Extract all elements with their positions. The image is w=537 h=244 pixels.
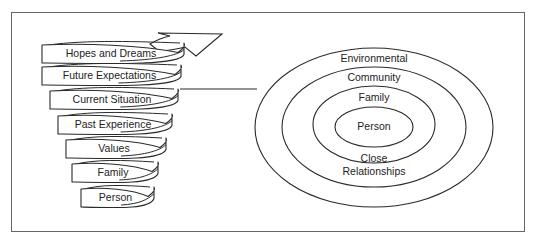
- spiral-ribbon: Future Expectations: [42, 63, 182, 85]
- ring-label-environmental: Environmental: [340, 52, 407, 64]
- spiral-label: Current Situation: [73, 93, 152, 105]
- ring-label-community: Community: [347, 71, 401, 83]
- ring-labels: Environmental Community Family Person Cl…: [340, 52, 407, 177]
- spiral-label: Person: [99, 191, 132, 203]
- spiral-label: Family: [98, 166, 130, 178]
- spiral-ribbon: Current Situation: [50, 87, 179, 109]
- ring-label-close: Close: [361, 152, 388, 164]
- diagram-svg: PersonFamilyValuesPast ExperienceCurrent…: [0, 0, 537, 244]
- spiral-label: Values: [98, 142, 129, 154]
- spiral-ribbons: PersonFamilyValuesPast ExperienceCurrent…: [42, 41, 185, 207]
- ring-label-family: Family: [359, 91, 391, 103]
- spiral-label: Past Experience: [75, 118, 152, 130]
- spiral-label: Future Expectations: [63, 69, 156, 81]
- spiral-ribbon: Values: [66, 136, 167, 158]
- ring-label-person: Person: [357, 120, 390, 132]
- spiral-ribbon: Past Experience: [58, 112, 173, 134]
- spiral-ribbon: Person: [81, 185, 155, 207]
- ring-label-relationships: Relationships: [342, 165, 405, 177]
- diagram-canvas: PersonFamilyValuesPast ExperienceCurrent…: [0, 0, 537, 244]
- spiral-ribbon: Family: [72, 160, 159, 182]
- spiral-label: Hopes and Dreams: [66, 47, 156, 59]
